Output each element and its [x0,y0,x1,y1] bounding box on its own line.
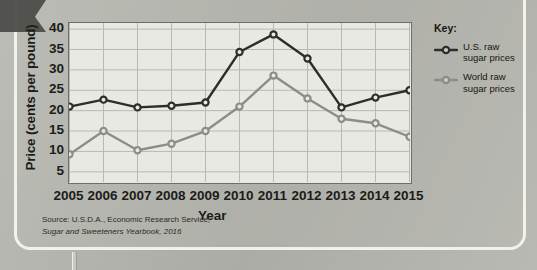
y-axis-tick-label: 30 [40,62,64,76]
data-point-marker [372,120,378,126]
legend-rows: U.S. rawsugar pricesWorld rawsugar price… [434,41,534,94]
legend-item-label-line2: sugar prices [463,83,515,94]
data-point-marker [236,103,242,109]
data-point-marker [100,97,106,103]
data-point-marker [270,31,276,37]
data-point-marker [372,95,378,101]
legend-item: U.S. rawsugar prices [434,41,534,63]
legend-item-label-line1: U.S. raw [463,41,515,52]
data-point-marker [304,95,310,101]
y-axis-tick-label: 40 [40,21,64,35]
data-point-marker [270,72,276,78]
data-point-marker [168,141,174,147]
y-axis-tick-label: 15 [40,123,64,137]
data-point-marker [202,99,208,105]
data-point-marker [236,49,242,55]
source-note-line2: Sugar and Sweeteners Yearbook, 2016 [42,226,262,238]
source-note: Source: U.S.D.A., Economic Research Serv… [42,214,262,237]
y-axis-tick-label: 20 [40,103,64,117]
data-point-marker [168,103,174,109]
data-point-marker [69,151,73,157]
data-point-marker [202,128,208,134]
legend-item-label-line2: sugar prices [463,52,515,63]
data-point-marker [100,128,106,134]
y-axis-title: Price (cents per pound) [23,10,38,185]
y-axis-tick-label: 25 [40,82,64,96]
legend-item-label: U.S. rawsugar prices [463,41,515,63]
source-note-line1: Source: U.S.D.A., Economic Research Serv… [42,214,262,226]
data-point-marker [338,104,344,110]
circle-marker-icon [434,72,458,84]
x-axis-tick-label: 2015 [387,188,431,203]
data-point-marker [338,116,344,122]
y-axis-tick-label: 35 [40,42,64,56]
legend-item-label-line1: World raw [463,71,515,82]
plot-area [68,22,412,184]
data-point-marker [69,103,73,109]
line-chart: Price (cents per pound) 510152025303540 … [0,0,537,270]
y-axis-tick-label: 5 [40,164,64,178]
plot-svg [69,23,410,182]
y-axis-tick-label: 10 [40,143,64,157]
data-point-marker [406,87,410,93]
chart-legend: Key: U.S. rawsugar pricesWorld rawsugar … [434,22,534,102]
legend-title: Key: [434,22,534,34]
data-point-marker [406,134,410,140]
data-point-marker [304,55,310,61]
circle-marker-icon [434,42,458,54]
legend-item: World rawsugar prices [434,71,534,93]
data-point-marker [134,104,140,110]
data-point-marker [134,147,140,153]
legend-item-label: World rawsugar prices [463,71,515,93]
